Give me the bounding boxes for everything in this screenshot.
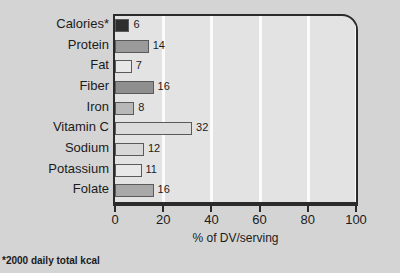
bar-row: 6 xyxy=(115,16,356,37)
bar xyxy=(115,143,144,156)
bar-value-label: 8 xyxy=(138,100,144,115)
bar-row: 16 xyxy=(115,78,356,99)
category-label: Iron xyxy=(0,97,109,118)
x-tick-label: 40 xyxy=(204,212,218,227)
x-axis-tick-labels: 020406080100 xyxy=(113,212,358,230)
bar-series: 614716832121116 xyxy=(115,16,356,202)
bar-row: 7 xyxy=(115,57,356,78)
category-label: Vitamin C xyxy=(0,117,109,138)
category-label: Fiber xyxy=(0,76,109,97)
bar-row: 8 xyxy=(115,99,356,120)
bar-row: 11 xyxy=(115,161,356,182)
bar-row: 12 xyxy=(115,140,356,161)
bar xyxy=(115,19,129,32)
category-label: Sodium xyxy=(0,138,109,159)
x-axis-title: % of DV/serving xyxy=(113,231,358,245)
bar xyxy=(115,40,149,53)
bar xyxy=(115,122,192,135)
x-tick-label: 60 xyxy=(252,212,266,227)
bar xyxy=(115,184,154,197)
category-label: Protein xyxy=(0,35,109,56)
x-tick-label: 100 xyxy=(345,212,367,227)
category-label: Folate xyxy=(0,179,109,200)
x-tick-label: 20 xyxy=(156,212,170,227)
category-label: Potassium xyxy=(0,159,109,180)
bar xyxy=(115,81,154,94)
plot-area: 614716832121116 xyxy=(113,14,358,204)
bar-value-label: 11 xyxy=(146,162,157,177)
x-tick-label: 80 xyxy=(301,212,315,227)
bar xyxy=(115,60,132,73)
bar-value-label: 16 xyxy=(158,182,170,197)
bar-row: 32 xyxy=(115,119,356,140)
bar-value-label: 12 xyxy=(148,141,160,156)
category-label: Calories* xyxy=(0,14,109,35)
bar xyxy=(115,164,142,177)
category-label: Fat xyxy=(0,55,109,76)
bar-row: 14 xyxy=(115,37,356,58)
bar xyxy=(115,102,134,115)
category-axis-labels: Calories*ProteinFatFiberIronVitamin CSod… xyxy=(0,14,109,204)
bar-row: 16 xyxy=(115,181,356,202)
chart-footnote: *2000 daily total kcal xyxy=(2,255,100,266)
bar-value-label: 16 xyxy=(158,79,170,94)
bar-value-label: 14 xyxy=(153,38,165,53)
bar-value-label: 32 xyxy=(196,120,208,135)
x-tick-label: 0 xyxy=(111,212,118,227)
bar-value-label: 6 xyxy=(133,17,139,32)
nutrition-bar-chart: Calories*ProteinFatFiberIronVitamin CSod… xyxy=(0,0,400,273)
bar-value-label: 7 xyxy=(136,58,142,73)
